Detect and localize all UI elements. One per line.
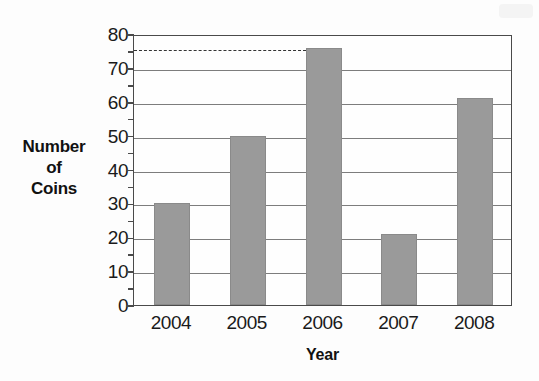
x-tick-label-2007: 2007	[378, 312, 418, 334]
bar-2005	[230, 136, 266, 305]
bar-2004	[154, 203, 190, 305]
y-axis-title-line-1: Number	[8, 136, 100, 157]
y-tick-label-40: 40	[98, 160, 128, 182]
y-tick-label-50: 50	[98, 126, 128, 148]
bar-2006	[306, 48, 342, 305]
reference-line	[134, 50, 306, 51]
y-tick-label-20: 20	[98, 227, 128, 249]
y-axis-tick-labels: 01020304050607080	[98, 0, 128, 381]
y-tick-label-30: 30	[98, 193, 128, 215]
plot-area	[133, 35, 512, 306]
x-axis-tick-labels: 20042005200620072008	[133, 312, 512, 342]
x-tick-label-2006: 2006	[302, 312, 342, 334]
x-tick-label-2004: 2004	[151, 312, 191, 334]
y-axis-title: Number of Coins	[8, 136, 100, 199]
y-tick-label-60: 60	[98, 92, 128, 114]
y-axis-title-line-2: of	[8, 157, 100, 178]
scan-artifact	[499, 4, 533, 18]
bar-chart: Number of Coins 01020304050607080 200420…	[0, 0, 539, 381]
bar-2007	[381, 234, 417, 305]
x-tick-label-2005: 2005	[227, 312, 267, 334]
x-tick-label-2008: 2008	[454, 312, 494, 334]
bar-2008	[457, 98, 493, 305]
x-axis-title: Year	[133, 346, 512, 364]
y-axis-title-line-3: Coins	[8, 178, 100, 199]
y-tick-label-80: 80	[98, 24, 128, 46]
y-tick-label-70: 70	[98, 58, 128, 80]
y-tick-label-10: 10	[98, 261, 128, 283]
y-tick-label-0: 0	[98, 295, 128, 317]
